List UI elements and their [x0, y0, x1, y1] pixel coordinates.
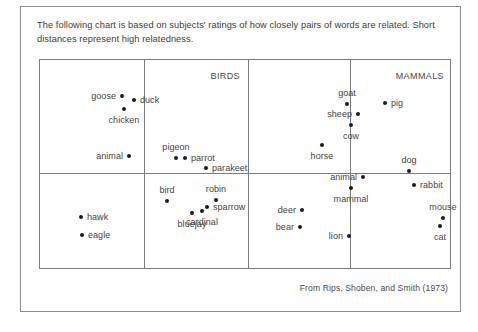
data-point-animal: [127, 154, 131, 158]
data-point-label-horse: horse: [311, 151, 334, 161]
data-point-cardinal: [200, 209, 204, 213]
panel-divider-horizontal: [40, 173, 450, 174]
data-point-label-parakeet: parakeet: [212, 163, 247, 173]
data-point-mammal: [349, 186, 353, 190]
data-point-pigeon: [174, 156, 178, 160]
panel-divider-vertical: [248, 60, 249, 268]
data-point-label-bear: bear: [276, 222, 294, 232]
data-point-label-mouse: mouse: [429, 202, 456, 212]
data-point-lion: [347, 234, 351, 238]
data-point-cat: [438, 224, 442, 228]
data-point-label-deer: deer: [278, 205, 296, 215]
data-point-label-eagle: eagle: [88, 230, 110, 240]
data-point-label-duck: duck: [140, 95, 159, 105]
data-point-label-animal: animal: [330, 172, 357, 182]
data-point-deer: [300, 208, 304, 212]
data-point-label-pigeon: pigeon: [162, 142, 189, 152]
data-point-chicken: [122, 107, 126, 111]
data-point-parakeet: [204, 166, 208, 170]
data-point-hawk: [79, 215, 83, 219]
scatter-plot-area: BIRDSMAMMALS gooseduckchickenanimalhawke…: [39, 59, 451, 269]
data-point-label-goose: goose: [91, 91, 116, 101]
panel-label-birds: BIRDS: [210, 71, 240, 81]
data-point-label-goat: goat: [338, 88, 356, 98]
data-point-sparrow: [205, 205, 209, 209]
data-point-label-lion: lion: [329, 231, 343, 241]
data-point-horse: [320, 143, 324, 147]
data-point-bird: [165, 199, 169, 203]
source-credit: From Rips, Shoben, and Smith (1973): [300, 283, 448, 293]
data-point-label-robin: robin: [206, 184, 226, 194]
data-point-duck: [132, 98, 136, 102]
data-point-label-bird: bird: [159, 185, 174, 195]
data-point-goose: [120, 94, 124, 98]
data-point-label-hawk: hawk: [87, 212, 108, 222]
data-point-label-cat: cat: [434, 232, 446, 242]
data-point-cow: [349, 123, 353, 127]
data-point-sheep: [356, 112, 360, 116]
data-point-rabbit: [412, 183, 416, 187]
panel-label-mammals: MAMMALS: [396, 71, 444, 81]
data-point-label-mammal: mammal: [334, 194, 369, 204]
data-point-label-parrot: parrot: [191, 153, 215, 163]
data-point-eagle: [80, 233, 84, 237]
data-point-label-sparrow: sparrow: [213, 202, 245, 212]
data-point-label-chicken: chicken: [109, 115, 140, 125]
data-point-animal: [361, 175, 365, 179]
data-point-mouse: [441, 216, 445, 220]
figure-caption: The following chart is based on subjects…: [37, 19, 445, 46]
data-point-label-rabbit: rabbit: [420, 180, 443, 190]
data-point-bluejay: [190, 211, 194, 215]
data-point-dog: [407, 169, 411, 173]
data-point-label-cow: cow: [343, 131, 359, 141]
data-point-bear: [298, 225, 302, 229]
data-point-parrot: [183, 156, 187, 160]
figure-frame: The following chart is based on subjects…: [20, 6, 461, 312]
data-point-pig: [383, 101, 387, 105]
data-point-label-dog: dog: [401, 155, 416, 165]
data-point-label-animal: animal: [96, 151, 123, 161]
panel-divider-vertical: [144, 60, 145, 268]
data-point-label-pig: pig: [391, 98, 403, 108]
data-point-goat: [345, 102, 349, 106]
data-point-label-cardinal: cardinal: [186, 217, 218, 227]
data-point-label-sheep: sheep: [327, 109, 352, 119]
